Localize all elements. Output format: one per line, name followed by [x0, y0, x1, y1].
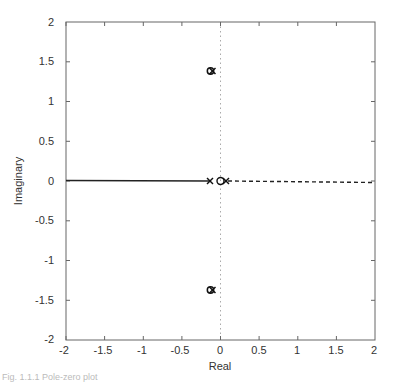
- svg-text:0.5: 0.5: [39, 135, 54, 147]
- svg-text:1.5: 1.5: [328, 344, 343, 356]
- upper-pole-zero-pair: [207, 68, 215, 74]
- svg-text:-0.5: -0.5: [171, 344, 190, 356]
- lower-pole-zero-pair: [207, 287, 215, 293]
- x-tick-labels: -2 -1.5 -1 -0.5 0 0.5 1 1.5 2: [59, 344, 377, 356]
- figure-caption: Fig. 1.1.1 Pole-zero plot: [2, 372, 98, 382]
- svg-text:-2: -2: [59, 344, 69, 356]
- pole-zero-plot: -2 -1.5 -1 -0.5 0 0.5 1 1.5 2 2 1.5 1 0.…: [0, 0, 393, 383]
- svg-text:-1: -1: [44, 254, 54, 266]
- svg-text:2: 2: [48, 16, 54, 28]
- svg-text:0.5: 0.5: [251, 344, 266, 356]
- y-axis-label: Imaginary: [12, 156, 24, 205]
- svg-text:1.5: 1.5: [39, 55, 54, 67]
- real-axis-markers: [207, 178, 229, 185]
- svg-text:-1.5: -1.5: [35, 294, 54, 306]
- svg-text:-2: -2: [44, 333, 54, 345]
- svg-text:-1: -1: [137, 344, 147, 356]
- svg-text:2: 2: [371, 344, 377, 356]
- locus-solid-line: [66, 181, 210, 182]
- y-tick-labels: 2 1.5 1 0.5 0 -0.5 -1 -1.5 -2: [35, 16, 54, 345]
- svg-text:1: 1: [294, 344, 300, 356]
- svg-text:0: 0: [48, 175, 54, 187]
- x-axis-label: Real: [209, 360, 232, 372]
- svg-text:-0.5: -0.5: [35, 214, 54, 226]
- locus-dashed-line: [228, 181, 375, 183]
- svg-text:-1.5: -1.5: [94, 344, 113, 356]
- svg-text:1: 1: [48, 95, 54, 107]
- svg-text:0: 0: [217, 344, 223, 356]
